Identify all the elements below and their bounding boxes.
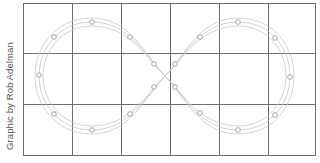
grid-and-track-svg bbox=[0, 0, 320, 163]
grid bbox=[24, 4, 316, 156]
marker-circle bbox=[173, 62, 178, 67]
marker-circle bbox=[52, 35, 57, 40]
marker-circle bbox=[198, 111, 203, 116]
marker-circle bbox=[90, 128, 95, 133]
credit-text: Graphic by Rob Adelman bbox=[4, 42, 15, 150]
marker-circle bbox=[128, 35, 133, 40]
marker-circle bbox=[128, 112, 133, 117]
grid-frame bbox=[24, 4, 316, 156]
marker-circle bbox=[52, 112, 57, 117]
marker-circle bbox=[273, 113, 278, 118]
marker-circle bbox=[273, 36, 278, 41]
marker-circle bbox=[198, 35, 203, 40]
marker-circle bbox=[288, 75, 293, 80]
track-lane-inner bbox=[43, 26, 286, 126]
marker-circle bbox=[236, 20, 241, 25]
track bbox=[35, 18, 294, 134]
marker-circle bbox=[152, 62, 157, 67]
marker-circle bbox=[173, 85, 178, 90]
marker-circle bbox=[152, 85, 157, 90]
marker-circle bbox=[90, 20, 95, 25]
marker-circle bbox=[236, 128, 241, 133]
marker-circle bbox=[37, 73, 42, 78]
